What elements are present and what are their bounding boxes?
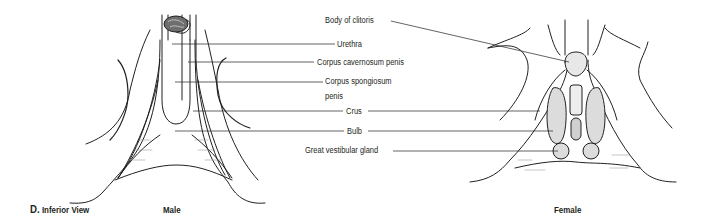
label-urethra: Urethra bbox=[337, 39, 362, 49]
label-crus: Crus bbox=[346, 106, 362, 116]
label-corpus-spongiosum-line1: Corpus spongiosum bbox=[325, 76, 392, 86]
male-perineum-drawing bbox=[70, 15, 265, 203]
panel-letter: D. bbox=[30, 203, 40, 215]
female-bulbs bbox=[547, 85, 605, 159]
label-corpus-spongiosum-line2: penis bbox=[325, 91, 343, 101]
panel-caption: D. Inferior View bbox=[30, 203, 89, 215]
label-great-vestibular-gland: Great vestibular gland bbox=[305, 145, 378, 155]
urethra-cross-section bbox=[164, 16, 188, 32]
caption-male: Male bbox=[163, 205, 181, 215]
leader-lines bbox=[172, 21, 569, 151]
label-body-of-clitoris: Body of clitoris bbox=[325, 15, 374, 25]
label-corpus-cavernosum-penis: Corpus cavernosum penis bbox=[317, 57, 404, 67]
panel-title: Inferior View bbox=[42, 205, 89, 215]
caption-female: Female bbox=[554, 205, 581, 215]
leader-body-of-clitoris bbox=[391, 21, 569, 62]
label-bulb: Bulb bbox=[347, 126, 362, 136]
